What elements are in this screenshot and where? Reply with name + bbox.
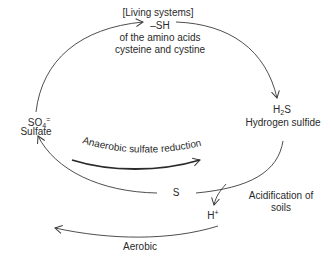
sulfur-cycle-diagram: [Living systems] –SH of the amino acids … <box>0 0 331 262</box>
anaerobic-label: Anaerobic sulfate reduction <box>81 134 202 154</box>
aerobic-label: Aerobic <box>115 241 165 253</box>
anaerobic-label-svg: Anaerobic sulfate reduction <box>0 0 331 262</box>
